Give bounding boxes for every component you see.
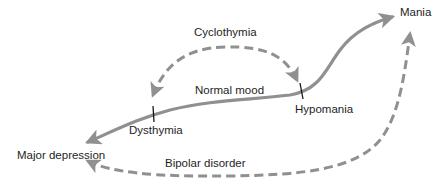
dysthymia-tick bbox=[153, 106, 154, 122]
label-major-depression: Major depression bbox=[17, 150, 105, 162]
label-dysthymia: Dysthymia bbox=[129, 125, 183, 137]
label-mania: Mania bbox=[400, 7, 431, 19]
label-hypomania: Hypomania bbox=[295, 104, 353, 116]
bipolar-disorder-cycle-arrow bbox=[88, 34, 410, 176]
label-bipolar-disorder: Bipolar disorder bbox=[165, 158, 246, 170]
label-cyclothymia: Cyclothymia bbox=[194, 27, 257, 39]
label-normal-mood: Normal mood bbox=[195, 85, 264, 97]
